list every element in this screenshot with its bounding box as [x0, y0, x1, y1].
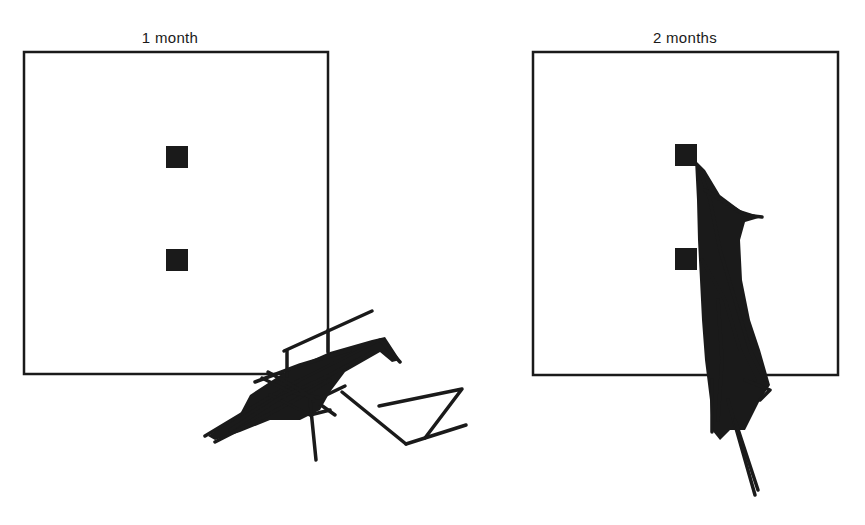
target-square — [166, 249, 188, 271]
movement-path — [342, 392, 406, 444]
arena-box — [24, 52, 328, 374]
panel-1 — [24, 52, 466, 460]
arena-box — [533, 52, 838, 375]
path-cluster — [695, 160, 770, 440]
target-square — [166, 146, 188, 168]
tracking-figure — [0, 0, 865, 525]
target-square — [675, 248, 697, 270]
movement-path — [406, 425, 466, 444]
target-square — [675, 144, 697, 166]
panel-2 — [533, 52, 838, 495]
movement-path — [735, 420, 758, 490]
